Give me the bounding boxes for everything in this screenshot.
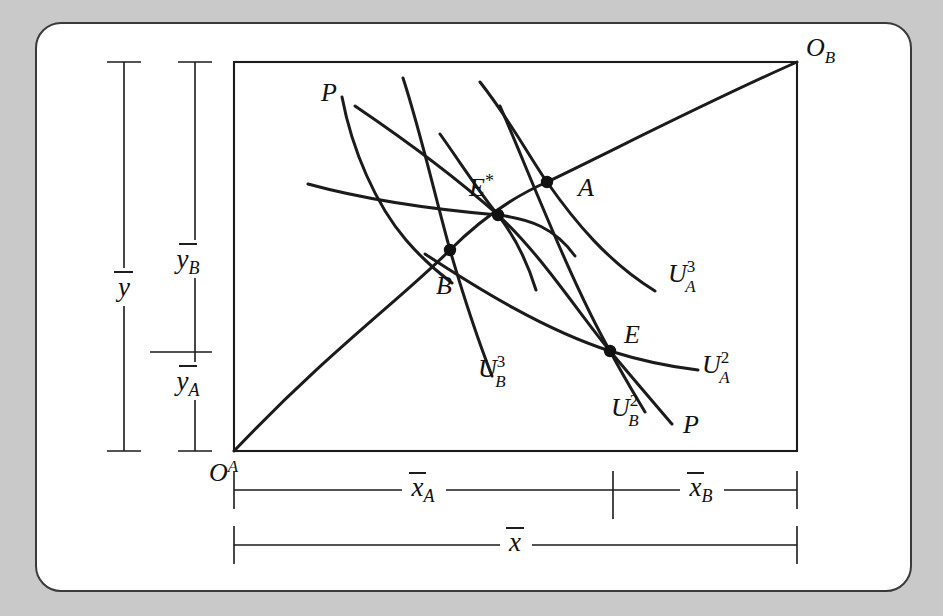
figure-root: y yB yA xA [0, 0, 943, 616]
label-price-line-bottom-text: P [682, 410, 699, 439]
label-price-line-bottom: P [682, 410, 699, 439]
label-u-a-3-superscript: 3 [687, 257, 696, 276]
label-price-line-top-text: P [320, 78, 337, 107]
point-marker-estar [492, 209, 504, 221]
edgeworth-box-diagram: y yB yA xA [0, 0, 943, 616]
indifference-curve-u-a-2 [425, 254, 698, 370]
label-u-a-2-subscript: A [718, 368, 730, 387]
label-point-estar-base: E [468, 173, 485, 202]
point-marker-b [444, 244, 456, 256]
label-point-b-text: B [436, 271, 452, 300]
label-x-b-subscript: B [701, 486, 712, 506]
label-point-e-text: E [623, 320, 640, 349]
label-u-b-3-subscript: B [495, 372, 506, 391]
label-u-a-2-superscript: 2 [721, 348, 730, 367]
label-y-total-text: y [115, 272, 130, 302]
indifference-curve-u-b-3 [403, 78, 492, 376]
label-y-total: y [115, 272, 130, 302]
label-origin-a-superscript: A [227, 457, 239, 476]
label-u-b-3: U3B [478, 352, 506, 391]
label-point-estar-superscript: * [485, 171, 494, 191]
label-x-total: x [508, 527, 521, 557]
label-u-b-2-superscript: 2 [630, 391, 639, 410]
label-y-a-base: y [174, 366, 189, 396]
label-point-a: A [576, 173, 594, 202]
label-y-b-base: y [174, 244, 189, 274]
contract-curve [234, 62, 797, 451]
label-y-a-subscript: A [187, 380, 200, 400]
label-u-b-2-subscript: B [628, 411, 639, 430]
label-origin-b-subscript: B [825, 48, 836, 67]
label-point-e: E [623, 320, 640, 349]
label-u-a-3-subscript: A [684, 277, 696, 296]
label-origin-b-base: O [806, 33, 825, 62]
point-marker-a [541, 176, 553, 188]
marked-points-group [444, 176, 616, 357]
label-x-b-base: x [689, 472, 702, 502]
label-x-a-subscript: A [422, 486, 435, 506]
label-price-line-top: P [320, 78, 337, 107]
label-u-a-3: U3A [668, 257, 696, 296]
label-point-estar: E* [468, 171, 494, 202]
point-marker-e [604, 345, 616, 357]
label-origin-b: OB [806, 33, 836, 67]
measure-y-total [107, 62, 141, 451]
label-u-a-2: U2A [702, 348, 730, 387]
label-x-a-base: x [411, 472, 424, 502]
label-u-b-3-superscript: 3 [497, 352, 506, 371]
label-y-b-subscript: B [188, 258, 199, 278]
indifference-curve-u-a-3 [480, 82, 655, 291]
label-point-b: B [436, 271, 452, 300]
label-point-a-text: A [576, 173, 594, 202]
edgeworth-box-frame [234, 62, 797, 451]
label-u-b-2: U2B [611, 391, 639, 430]
label-origin-a-base: O [209, 458, 228, 487]
label-x-total-text: x [508, 527, 521, 557]
